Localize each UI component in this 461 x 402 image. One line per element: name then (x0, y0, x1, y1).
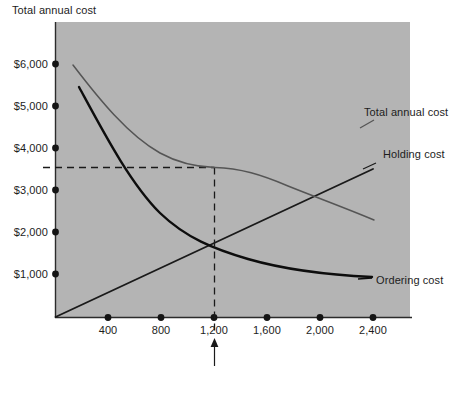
y-tick-label-5000: $5,000 (0, 100, 48, 113)
x-tick-dot-2400 (370, 314, 377, 321)
y-tick-dot-5000 (52, 103, 59, 110)
y-tick-label-4000: $4,000 (0, 142, 48, 155)
x-tick-dot-2000 (317, 314, 324, 321)
y-tick-dot-4000 (52, 145, 59, 152)
y-tick-label-1000: $1,000 (0, 268, 48, 281)
x-tick-label-2000: 2,000 (290, 324, 350, 337)
x-tick-dot-1600 (264, 314, 271, 321)
y-axis-caption: Total annual cost (12, 4, 96, 17)
y-tick-label-6000: $6,000 (0, 58, 48, 71)
x-tick-dot-400 (105, 314, 112, 321)
y-tick-dot-2000 (52, 229, 59, 236)
chart-canvas (0, 0, 461, 402)
x-tick-label-1200: 1,200 (184, 324, 244, 337)
series-label-holding-cost: Holding cost (383, 148, 445, 161)
x-tick-dot-800 (158, 314, 165, 321)
x-tick-label-800: 800 (131, 324, 191, 337)
series-label-ordering-cost: Ordering cost (376, 274, 443, 287)
eoq-chart-figure: Total annual cost $6,000 $5,000 $4,000 $… (0, 0, 461, 402)
x-tick-label-1600: 1,600 (237, 324, 297, 337)
y-tick-label-2000: $2,000 (0, 226, 48, 239)
y-tick-dot-6000 (52, 61, 59, 68)
y-tick-dot-3000 (52, 187, 59, 194)
eoq-arrow (211, 338, 219, 366)
series-label-total-annual-cost: Total annual cost (364, 106, 448, 119)
ordering-cost-leader-line (358, 278, 372, 279)
x-tick-label-400: 400 (78, 324, 138, 337)
y-tick-dot-1000 (52, 271, 59, 278)
x-tick-label-2400: 2,400 (343, 324, 403, 337)
y-tick-label-3000: $3,000 (0, 184, 48, 197)
